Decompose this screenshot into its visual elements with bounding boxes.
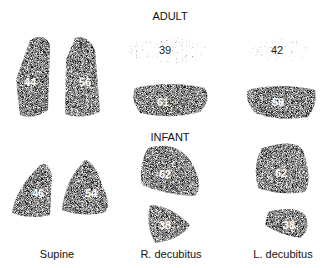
- adult-section-title: ADULT: [110, 10, 230, 22]
- column-label-l-decubitus: L. decubitus: [238, 248, 328, 260]
- adult-rdecub-lower: 61: [148, 96, 178, 108]
- adult-supine-left: 56: [70, 76, 100, 88]
- infant-rdecub-lower: 38: [150, 219, 180, 231]
- infant-rdecub-upper: 62: [150, 168, 180, 180]
- infant-supine-right: 46: [23, 187, 53, 199]
- infant-section-title: INFANT: [110, 131, 230, 143]
- adult-supine-right: 44: [15, 76, 45, 88]
- column-label-r-decubitus: R. decubitus: [126, 248, 216, 260]
- infant-ldecub-upper: 62: [266, 167, 296, 179]
- infant-ldecub-lower: 38: [274, 219, 304, 231]
- adult-ldecub-upper: 42: [262, 44, 292, 56]
- adult-rdecub-upper: 39: [150, 44, 180, 56]
- infant-supine-left: 54: [76, 187, 106, 199]
- adult-ldecub-lower: 58: [263, 96, 293, 108]
- column-label-supine: Supine: [12, 248, 102, 260]
